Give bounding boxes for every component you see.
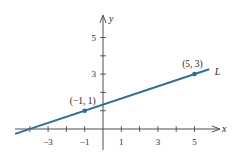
data-point [82, 108, 87, 113]
x-tick-label: 1 [119, 137, 124, 147]
y-tick-label: 3 [92, 69, 97, 79]
point-label: (−1, 1) [70, 96, 96, 107]
data-point [192, 72, 197, 77]
y-tick-label: 5 [92, 33, 97, 43]
y-axis-label: y [108, 13, 114, 24]
x-tick-label: 5 [192, 137, 197, 147]
chart: xy−3−113535(−1, 1)(5, 3)L [0, 0, 237, 159]
x-axis-label: x [221, 123, 227, 134]
x-tick-label: 3 [156, 137, 161, 147]
x-tick-label: −3 [43, 137, 53, 147]
line-L [15, 69, 209, 134]
x-tick-label: −1 [80, 137, 90, 147]
point-label: (5, 3) [182, 59, 203, 70]
line-name-label: L [214, 66, 221, 77]
